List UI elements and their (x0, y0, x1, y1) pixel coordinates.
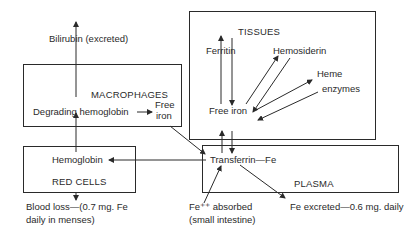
fe-absorbed-label-line1: Fe⁺⁺ absorbed (189, 201, 252, 212)
arrow-absorbed-to-transferrin (204, 166, 221, 203)
iron-metabolism-diagram: Bilirubin (excreted) MACROPHAGES Degradi… (0, 0, 418, 234)
macrophage-free-iron-label-line1: Free (155, 99, 175, 110)
arrow-transferrin-to-excreted (240, 165, 285, 198)
tissues-box (190, 12, 376, 140)
hemoglobin-label: Hemoglobin (52, 154, 103, 165)
fe-excreted-label: Fe excreted—0.6 mg. daily (290, 201, 404, 212)
heme-label: Heme (317, 68, 342, 79)
macrophage-free-iron-label-line2: iron (156, 110, 172, 121)
enzymes-label: enzymes (322, 83, 360, 94)
bilirubin-label: Bilirubin (excreted) (49, 33, 128, 44)
fe-absorbed-label-line2: (small intestine) (189, 214, 256, 225)
blood-loss-label-line1: Blood loss—(0.7 mg. Fe (26, 201, 128, 212)
hemosiderin-label: Hemosiderin (273, 45, 326, 56)
transferrin-fe-label: Transferrin—Fe (210, 154, 276, 165)
arrow-enzymes-to-free-iron (258, 92, 318, 120)
blood-loss-label-line2: daily in menses) (26, 214, 95, 225)
ferritin-label: Ferritin (206, 45, 236, 56)
tissues-title: TISSUES (238, 26, 280, 37)
degrading-hemoglobin-label: Degrading hemoglobin (33, 106, 129, 117)
arrow-free-iron-to-hemosiderin (246, 56, 278, 104)
red-cells-title: RED CELLS (52, 176, 107, 187)
plasma-title: PLASMA (294, 178, 334, 189)
tissue-free-iron-label: Free iron (209, 105, 247, 116)
